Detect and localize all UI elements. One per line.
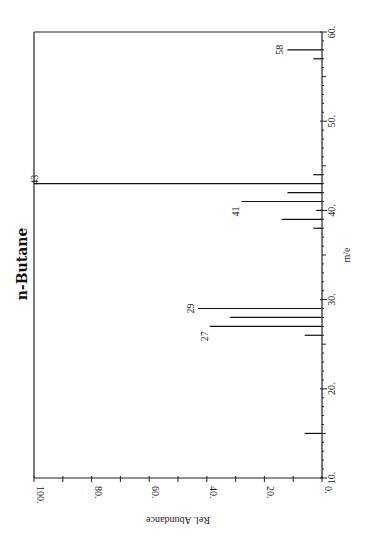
- abundance-tick-label: 40.: [208, 486, 219, 499]
- y-axis-title: Rel. Abundance: [146, 515, 210, 526]
- spectrum-peaks: [34, 50, 322, 434]
- peak-label: 58: [274, 45, 285, 55]
- mz-tick-label: 60.: [326, 26, 337, 39]
- mz-tick-label: 40.: [326, 204, 337, 217]
- peak-label: 41: [230, 206, 241, 216]
- peak-label: 29: [185, 304, 196, 314]
- peak-label: 27: [199, 331, 210, 341]
- peak-label: 43: [29, 175, 40, 185]
- mz-tick-label: 50.: [326, 115, 337, 128]
- mz-tick-label: 10.: [326, 472, 337, 485]
- abundance-tick-label: 60.: [150, 486, 161, 499]
- abundance-tick-label: 80.: [93, 486, 104, 499]
- mz-axis-ticks: 10.20.30.40.50.60.: [320, 26, 337, 485]
- mass-spectrum-chart: 10.20.30.40.50.60. 0.20.40.60.80.100. 27…: [0, 0, 371, 548]
- plot-frame: [34, 32, 322, 478]
- abundance-tick-label: 100.: [35, 486, 46, 504]
- abundance-axis-ticks: 0.20.40.60.80.100.: [34, 476, 334, 504]
- abundance-tick-label: 20.: [265, 486, 276, 499]
- x-axis-title: m/e: [341, 247, 352, 263]
- chart-title: n-Butane: [14, 228, 30, 301]
- peak-labels: 2729414358: [29, 45, 285, 342]
- mz-tick-label: 30.: [326, 293, 337, 306]
- abundance-tick-label: 0.: [323, 486, 334, 494]
- mz-tick-label: 20.: [326, 383, 337, 396]
